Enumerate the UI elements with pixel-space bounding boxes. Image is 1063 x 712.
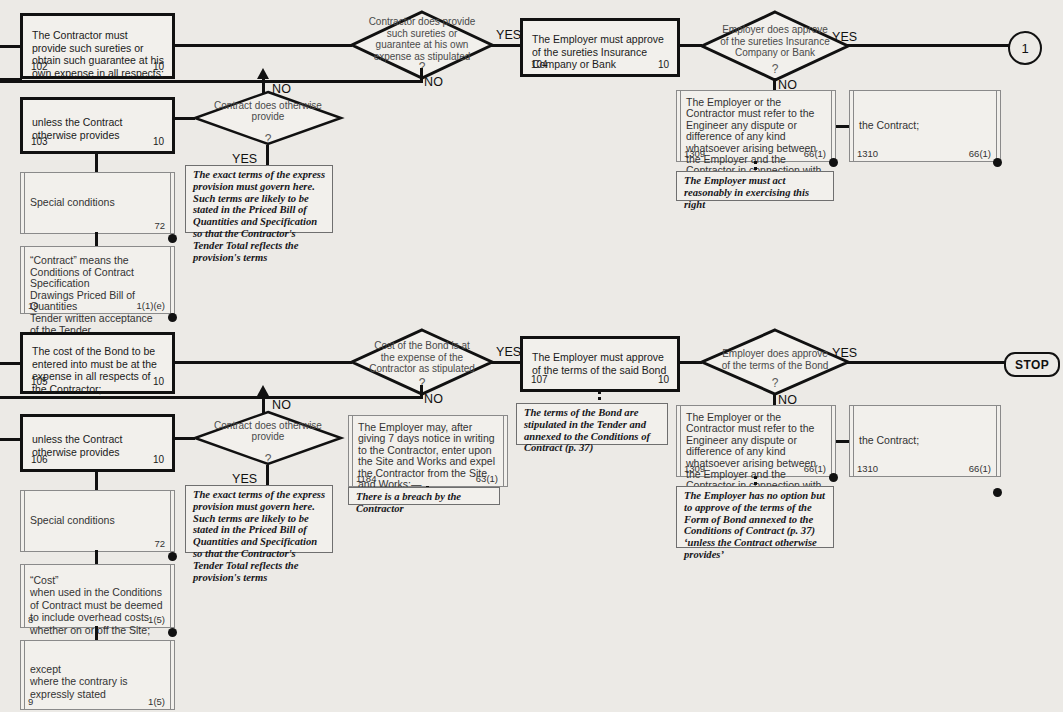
junction-dot-special-conditions-1 (168, 234, 177, 243)
arrow-into-102 (257, 68, 269, 79)
label-yes-employer-terms: YES (832, 346, 857, 360)
arrow-into-105 (257, 385, 269, 396)
box-except-number: 9 (28, 696, 33, 708)
diamond-contract-otherwise-provide-1-question: ? (193, 132, 343, 146)
line-106-to-special-conditions-2 (95, 470, 98, 492)
junction-dot-1309 (829, 158, 838, 167)
box-105-text: The cost of the Bond to be entered into … (32, 345, 164, 395)
box-1309: The Employer or the Contractor must refe… (676, 90, 836, 162)
line-106-to-diamond-otherwise-2 (173, 437, 195, 440)
junction-dot-contract-means (168, 313, 177, 322)
box-1309-ref: 66(1) (804, 148, 826, 160)
box-107-ref: 10 (658, 374, 669, 387)
note-bond-terms-stipulated: The terms of the Bond are stipulated in … (516, 403, 668, 445)
diamond-contract-otherwise-provide-1-text: Contract does otherwise provide (211, 99, 325, 122)
box-106: unless the Contract otherwise provides 1… (20, 414, 175, 472)
box-106-number: 106 (31, 454, 48, 467)
line-no-bond-cost-horizontal (0, 396, 423, 399)
box-102-number: 102 (31, 61, 48, 74)
label-no-bond-cost: NO (424, 392, 443, 406)
line-yes-otherwise-2 (266, 465, 269, 485)
line-yes-otherwise-1 (266, 145, 269, 165)
box-1309b-ref: 66(1) (804, 463, 826, 475)
box-except: except where the contrary is expressly s… (20, 640, 175, 710)
label-no-otherwise-1: NO (272, 82, 291, 96)
box-1309b-number: 1309 (684, 463, 705, 475)
box-1310b-ref: 66(1) (969, 463, 991, 475)
line-yes-to-circle-1 (846, 44, 1011, 47)
box-1310b: the Contract; 1310 66(1) (849, 405, 1001, 477)
box-107-text: The Employer must approve of the terms o… (532, 351, 669, 376)
box-cost-definition-ref: 1(5) (148, 614, 165, 626)
diamond-bond-cost-text: Cost of the Bond is at the expense of th… (367, 340, 476, 375)
diamond-employer-approves-sureties: Employer does approve of the sureties In… (700, 10, 850, 82)
box-1184-ref: 63(1) (476, 473, 498, 485)
diamond-employer-approves-sureties-text: Employer does approve of the sureties In… (718, 24, 832, 59)
line-in-103 (0, 78, 22, 81)
box-104-number: 104 (531, 59, 548, 72)
line-no-sureties-horizontal (0, 80, 423, 83)
line-yes-to-104 (491, 44, 521, 47)
box-103-ref: 10 (153, 136, 164, 149)
box-105-ref: 10 (153, 376, 164, 389)
box-1310b-number: 1310 (857, 463, 878, 475)
box-1310b-text: the Contract; (859, 434, 990, 446)
box-1309b: The Employer or the Contractor must refe… (676, 405, 836, 477)
box-special-conditions-2-text: Special conditions (30, 514, 164, 526)
diamond-contract-otherwise-provide-2: Contract does otherwise provide ? (193, 410, 343, 466)
terminator-circle-1-label: 1 (1021, 41, 1028, 56)
line-in-105 (0, 362, 22, 365)
box-102: The Contractor must provide such suretie… (20, 13, 175, 79)
diamond-contract-otherwise-provide-2-question: ? (193, 452, 343, 466)
box-special-conditions-1-ref: 72 (154, 220, 165, 232)
box-104-ref: 10 (658, 59, 669, 72)
box-104: The Employer must approve of the suretie… (520, 18, 680, 77)
box-1310-ref: 66(1) (969, 148, 991, 160)
terminator-stop-label: STOP (1015, 358, 1049, 372)
junction-dot-special-conditions-2 (168, 552, 177, 561)
box-1184-number: 1184 (356, 473, 376, 485)
label-yes-otherwise-1: YES (232, 152, 257, 166)
box-102-ref: 10 (153, 61, 164, 74)
label-yes-bond-cost: YES (496, 345, 521, 359)
box-1310: the Contract; 1310 66(1) (849, 90, 1001, 162)
line-in-106 (0, 438, 22, 441)
note-express-provision-1: The exact terms of the express provision… (185, 165, 333, 233)
note-employer-act-reasonably: The Employer must act reasonably in exer… (676, 171, 834, 201)
box-106-text: unless the Contract otherwise provides (32, 433, 164, 458)
diamond-employer-approves-bond-terms-text: Employer does approve of the terms of th… (718, 348, 832, 371)
box-1310-text: the Contract; (859, 119, 990, 131)
box-103-text: unless the Contract otherwise provides (32, 116, 164, 141)
box-107: The Employer must approve of the terms o… (520, 336, 680, 392)
diamond-employer-approves-bond-terms: Employer does approve of the terms of th… (700, 328, 850, 396)
diamond-contract-otherwise-provide-1: Contract does otherwise provide ? (193, 90, 343, 146)
label-yes-sureties: YES (496, 28, 521, 42)
junction-dot-cost-definition (168, 628, 177, 637)
line-in-102 (0, 45, 22, 48)
box-102-text: The Contractor must provide such suretie… (32, 29, 164, 79)
label-no-otherwise-2: NO (272, 398, 291, 412)
line-103-to-special-conditions (95, 152, 98, 174)
terminator-circle-1: 1 (1008, 31, 1042, 65)
box-contract-means-number: 19 (28, 300, 39, 312)
box-105: The cost of the Bond to be entered into … (20, 332, 175, 394)
line-yes-to-107 (491, 361, 521, 364)
note-breach-by-contractor: There is a breach by the Contractor (348, 487, 500, 505)
diamond-contract-otherwise-provide-2-text: Contract does otherwise provide (211, 419, 325, 442)
line-yes-to-stop (846, 361, 1006, 364)
box-cost-definition: “Cost” when used in the Conditions of Co… (20, 564, 175, 628)
box-special-conditions-2: Special conditions 72 (20, 490, 175, 552)
terminator-stop: STOP (1004, 352, 1060, 377)
box-special-conditions-1-text: Special conditions (30, 196, 164, 208)
dash-107-to-note-bond-terms (598, 391, 601, 403)
line-107-to-diamond-employer-terms (678, 361, 702, 364)
label-no-sureties: NO (424, 75, 443, 89)
junction-dot-1309b (829, 473, 838, 482)
box-except-text: except where the contrary is expressly s… (30, 663, 164, 700)
line-104-to-diamond-employer-approve (678, 44, 702, 47)
box-1184: The Employer may, after giving 7 days no… (348, 415, 508, 487)
box-103-number: 103 (31, 136, 48, 149)
box-special-conditions-1: Special conditions 72 (20, 172, 175, 234)
line-105-to-diamond-bond-cost (173, 361, 352, 364)
line-103-to-diamond-otherwise (173, 117, 195, 120)
